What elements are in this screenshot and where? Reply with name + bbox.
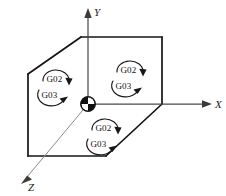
origin-sphere-marker xyxy=(81,97,95,111)
axis-z-line xyxy=(27,104,88,177)
arc-yz-g02-arrowhead xyxy=(65,78,72,86)
arc-xy-g02-arrowhead xyxy=(139,69,146,77)
axis-x-arrowhead xyxy=(202,100,212,107)
arc-zx-g02-arrowhead xyxy=(114,127,121,135)
arc-xy-g03-label: G03 xyxy=(116,81,132,91)
arc-xy-g03: G03 xyxy=(112,81,142,97)
arc-group-yz-plane: G02 G03 xyxy=(38,70,73,106)
arc-zx-g03-arrowhead xyxy=(109,146,118,153)
arc-zx-g02: G02 xyxy=(92,119,122,135)
axis-y-arrowhead xyxy=(84,8,91,18)
arc-yz-g02-label: G02 xyxy=(47,74,63,84)
arc-yz-g03: G03 xyxy=(38,90,68,106)
arc-group-xy-plane: G02 G03 xyxy=(112,61,147,97)
axis-z: Z xyxy=(21,104,88,193)
axis-x: X xyxy=(88,98,223,110)
figure-canvas: Y X Z G02 G03 xyxy=(0,0,226,196)
axis-label-y: Y xyxy=(94,6,102,18)
arc-yz-g02: G02 xyxy=(43,70,73,86)
box-edge-top-left-diagonal xyxy=(28,37,81,74)
arc-zx-g03: G03 xyxy=(87,139,117,155)
arc-xy-g02: G02 xyxy=(117,61,147,77)
arc-group-zx-plane: G02 G03 xyxy=(87,119,122,155)
arc-xy-g03-arrowhead xyxy=(134,88,143,95)
axis-label-z: Z xyxy=(28,181,35,193)
arc-zx-g02-label: G02 xyxy=(96,123,112,133)
axis-y: Y xyxy=(84,6,102,104)
arc-xy-g02-label: G02 xyxy=(121,65,137,75)
arc-yz-g03-label: G03 xyxy=(42,90,58,100)
arc-yz-g03-arrowhead xyxy=(60,97,69,104)
axis-label-x: X xyxy=(214,98,223,110)
arc-zx-g03-label: G03 xyxy=(91,139,107,149)
